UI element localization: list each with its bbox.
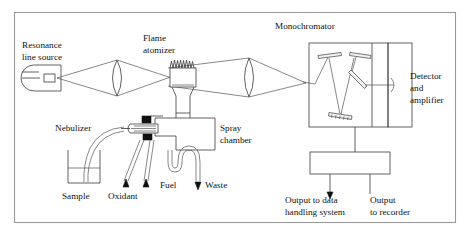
fuel-inlet: [143, 140, 154, 187]
label-flame-line-1: Flame: [143, 33, 166, 43]
flame-atomizer-burner: [170, 60, 196, 113]
label-detector-line-1: Detector: [410, 71, 442, 81]
arrow-down-icon-waste: [195, 182, 201, 190]
readout-electronics-box: [310, 152, 390, 174]
focusing-lens-right: [245, 58, 254, 97]
instrument-schematic: Resonance line source Flame atomizer Mon…: [0, 0, 468, 237]
label-detector-line-2: and: [410, 83, 424, 93]
label-spray-line-1: Spray: [220, 123, 242, 133]
label-monochromator: Monochromator: [275, 21, 335, 31]
impact-bead-block: [142, 116, 151, 123]
flame-squiggle-icon: [170, 60, 194, 68]
beam-lens2-to-monochromator: [249, 58, 306, 97]
label-fuel: Fuel: [160, 180, 177, 190]
label-output-data-1: Output to data: [285, 195, 338, 205]
label-nebulizer: Nebulizer: [55, 123, 91, 133]
collimating-lens-left: [113, 60, 122, 96]
beam-lamp-to-lens1: [57, 60, 117, 96]
label-oxidant: Oxidant: [108, 191, 138, 201]
label-output-recorder-1: Output: [370, 195, 396, 205]
label-sample: Sample: [62, 191, 90, 201]
gas-inlet-block: [143, 134, 152, 140]
label-waste: Waste: [205, 180, 227, 190]
sample-uptake-tube: [84, 127, 124, 182]
resonance-line-source-lamp: [21, 65, 61, 91]
label-resonance-line-2: line source: [22, 52, 62, 62]
label-output-data-2: handling system: [285, 207, 345, 217]
diagram-page: Resonance line source Flame atomizer Mon…: [0, 0, 468, 237]
label-spray-line-2: chamber: [220, 135, 252, 145]
label-resonance-line-1: Resonance: [22, 40, 62, 50]
spray-chamber: [155, 113, 215, 150]
label-output-recorder-2: to recorder: [370, 207, 410, 217]
label-flame-line-2: atomizer: [143, 45, 175, 55]
label-detector-line-3: amplifier: [410, 95, 444, 105]
oxidant-inlet: [123, 140, 144, 187]
